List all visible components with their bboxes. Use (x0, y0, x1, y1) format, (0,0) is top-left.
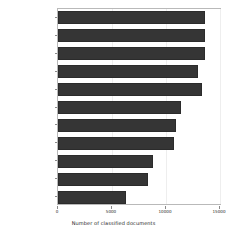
bar (58, 191, 126, 204)
bar (58, 83, 202, 96)
bar-row (58, 155, 153, 168)
x-axis-tick-label: 0 (56, 210, 59, 214)
bar (58, 119, 176, 132)
bar-row (58, 119, 176, 132)
bar-row (58, 29, 205, 42)
x-axis-tick (165, 206, 166, 209)
bar-row (58, 11, 205, 24)
bar-row (58, 173, 148, 186)
x-axis-title: Number of classified documents (0, 220, 227, 226)
bar (58, 155, 153, 168)
bar-row (58, 137, 174, 150)
plot-area (57, 8, 221, 205)
bar-series (58, 9, 220, 204)
x-axis-tick (57, 206, 58, 209)
x-axis-tick-label: 5000 (106, 210, 116, 214)
bar (58, 11, 205, 24)
bar-row (58, 47, 205, 60)
bar (58, 65, 198, 78)
bar-chart-figure: general wordssyringemarijuanapreparation… (0, 0, 227, 234)
x-axis-tick-label: 15000 (212, 210, 225, 214)
gridline (220, 9, 221, 204)
bar (58, 173, 148, 186)
x-axis-tick-label: 10000 (158, 210, 171, 214)
bar-row (58, 101, 181, 114)
bar-row (58, 83, 202, 96)
x-axis-tick (111, 206, 112, 209)
bar (58, 29, 205, 42)
x-axis-tick (219, 206, 220, 209)
bar (58, 137, 174, 150)
bar-row (58, 191, 126, 204)
bar (58, 101, 181, 114)
bar-row (58, 65, 198, 78)
bar (58, 47, 205, 60)
